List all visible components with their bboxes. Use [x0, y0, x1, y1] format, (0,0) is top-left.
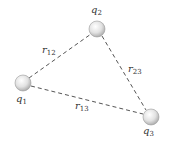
label-q1: q1 — [16, 93, 27, 106]
charge-q3-sphere — [143, 109, 159, 125]
charge-diagram: q2 q1 q3 r12 r23 r13 — [0, 0, 172, 141]
label-q2: q2 — [91, 4, 102, 17]
charge-q2-sphere — [89, 21, 105, 37]
label-r12: r12 — [42, 44, 56, 57]
distance-line-r12 — [29, 34, 91, 78]
label-r13: r13 — [75, 100, 89, 113]
label-r23: r23 — [128, 63, 142, 76]
charge-q1-sphere — [15, 75, 31, 91]
label-q3: q3 — [143, 125, 154, 138]
